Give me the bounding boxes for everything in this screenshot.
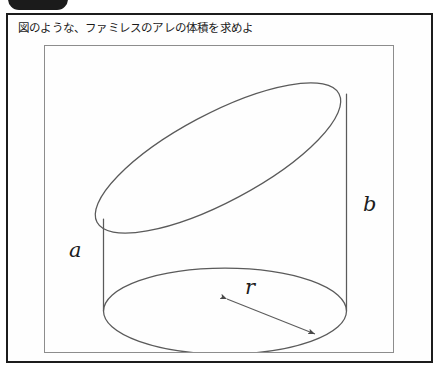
corner-badge[interactable] — [8, 0, 68, 10]
figure-frame: r a b — [44, 45, 394, 353]
problem-card: 図のような、ファミレスのアレの体積を求めよ — [6, 13, 433, 363]
top-cut-ellipse — [76, 55, 359, 261]
bottom-base-ellipse — [104, 268, 347, 352]
oblique-cylinder-figure: r — [45, 46, 393, 352]
problem-statement-text: 図のような、ファミレスのアレの体積を求めよ — [18, 20, 253, 36]
radius-arrow — [227, 299, 315, 334]
label-radius: r — [245, 275, 257, 299]
screenshot-root: 図のような、ファミレスのアレの体積を求めよ — [0, 0, 441, 373]
